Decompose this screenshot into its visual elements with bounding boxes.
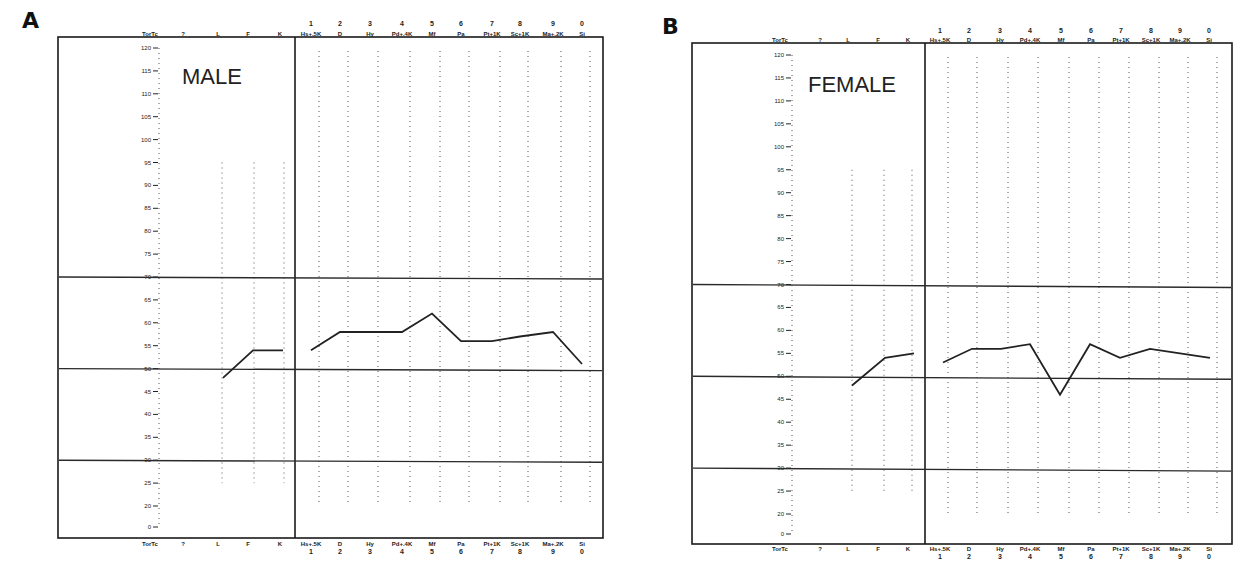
scale-number-footer: 5	[430, 548, 434, 555]
scale-name: Pd+.4K	[1020, 37, 1041, 43]
t-axis-tick: 85	[144, 205, 151, 211]
scale-name: Mf	[429, 31, 437, 37]
scale-name-footer: Hy	[366, 541, 374, 547]
scale-number: 2	[338, 20, 342, 27]
t-axis-tick: 120	[774, 52, 785, 58]
scale-name: Sc+1K	[511, 31, 530, 37]
reference-line-t30	[693, 468, 1231, 471]
column-header: F	[246, 31, 250, 37]
scale-number-footer: 0	[1207, 553, 1211, 560]
scale-number-footer: 2	[967, 553, 971, 560]
t-axis-tick: 20	[144, 503, 151, 509]
scale-number-footer: 7	[490, 548, 494, 555]
scale-number-footer: 9	[551, 548, 555, 555]
scale-number: 4	[1028, 27, 1032, 34]
column-footer: F	[246, 541, 250, 547]
t-axis-tick: 65	[777, 304, 784, 310]
t-axis-tick: 75	[144, 251, 151, 257]
t-axis-tick: 55	[144, 343, 151, 349]
t-axis-tick: 35	[777, 442, 784, 448]
scale-number-footer: 8	[518, 548, 522, 555]
t-axis-tick: 95	[144, 160, 151, 166]
scale-number: 5	[430, 20, 434, 27]
t-axis-tick: 80	[144, 228, 151, 234]
scale-name: Sc+1K	[1142, 37, 1161, 43]
scale-name: Pa	[1087, 37, 1095, 43]
scale-number: 8	[518, 20, 522, 27]
scale-number-footer: 2	[338, 548, 342, 555]
scale-number: 9	[1178, 27, 1182, 34]
scale-number-footer: 1	[938, 553, 942, 560]
scale-number-footer: 9	[1178, 553, 1182, 560]
scale-name: Hs+.5K	[930, 37, 951, 43]
scale-name-footer: Ma+.2K	[542, 541, 564, 547]
scale-name-footer: Pa	[457, 541, 465, 547]
clinical-profile-line	[943, 344, 1210, 395]
scale-number-footer: 8	[1149, 553, 1153, 560]
column-footer: TorTc	[772, 546, 788, 552]
column-header: F	[876, 37, 880, 43]
scale-number-footer: 3	[998, 553, 1002, 560]
t-axis-tick: 60	[144, 320, 151, 326]
scale-number: 6	[1089, 27, 1093, 34]
t-axis-tick: 100	[141, 137, 152, 143]
chart-frame	[58, 37, 603, 538]
t-axis-tick: 0	[781, 531, 785, 537]
t-axis-tick: 0	[148, 524, 152, 530]
scale-number-footer: 0	[580, 548, 584, 555]
column-footer: K	[906, 546, 911, 552]
scale-number: 1	[309, 20, 313, 27]
scale-name-footer: Pt+1K	[483, 541, 501, 547]
scale-name: Pt+1K	[1112, 37, 1130, 43]
scale-name-footer: Mf	[429, 541, 437, 547]
t-axis-tick: 25	[144, 480, 151, 486]
t-axis-tick: 105	[141, 114, 152, 120]
t-axis-tick: 120	[141, 45, 152, 51]
scale-name: Ma+.2K	[542, 31, 564, 37]
scale-number-footer: 6	[459, 548, 463, 555]
t-axis-tick: 110	[774, 98, 784, 104]
t-axis-tick: 80	[777, 236, 784, 242]
scale-name: Hs+.5K	[301, 31, 322, 37]
scale-name-footer: Mf	[1058, 546, 1066, 552]
column-header: TorTc	[772, 37, 788, 43]
column-header: ?	[181, 31, 185, 37]
sex-label: MALE	[182, 64, 242, 89]
t-axis-tick: 25	[777, 488, 784, 494]
t-axis-tick: 65	[144, 297, 151, 303]
column-footer: L	[216, 541, 220, 547]
scale-number: 4	[400, 20, 404, 27]
scale-number: 2	[967, 27, 971, 34]
sex-label: FEMALE	[808, 72, 896, 97]
column-footer: ?	[181, 541, 185, 547]
scale-name: Mf	[1058, 37, 1066, 43]
column-footer: F	[876, 546, 880, 552]
t-axis-tick: 110	[141, 91, 151, 97]
scale-name-footer: Hs+.5K	[301, 541, 322, 547]
validity-profile-line	[223, 350, 283, 378]
scale-number: 8	[1149, 27, 1153, 34]
column-footer: L	[846, 546, 850, 552]
scale-number: 1	[938, 27, 942, 34]
t-axis-tick: 20	[777, 511, 784, 517]
scale-name: Pd+.4K	[392, 31, 413, 37]
panel-a: AMALETorTcTorTc??LLFFKK1Hs+.5KHs+.5K12DD…	[22, 8, 603, 555]
t-axis-tick: 45	[144, 389, 151, 395]
scale-number-footer: 7	[1119, 553, 1123, 560]
panel-letter: A	[22, 8, 39, 33]
scale-number-footer: 5	[1059, 553, 1063, 560]
t-axis-tick: 115	[774, 75, 784, 81]
scale-name-footer: Pa	[1087, 546, 1095, 552]
scale-name-footer: Hy	[996, 546, 1004, 552]
scale-number: 7	[490, 20, 494, 27]
t-axis-tick: 95	[777, 167, 784, 173]
mmpi-profile-figure: AMALETorTcTorTc??LLFFKK1Hs+.5KHs+.5K12DD…	[0, 0, 1255, 582]
scale-number: 0	[1207, 27, 1211, 34]
t-axis-tick: 90	[144, 182, 151, 188]
scale-name: D	[967, 37, 972, 43]
scale-name: Hy	[366, 31, 374, 37]
scale-name-footer: Sc+1K	[1142, 546, 1161, 552]
t-axis-tick: 40	[144, 411, 151, 417]
scale-name-footer: Si	[1206, 546, 1212, 552]
scale-number: 3	[368, 20, 372, 27]
